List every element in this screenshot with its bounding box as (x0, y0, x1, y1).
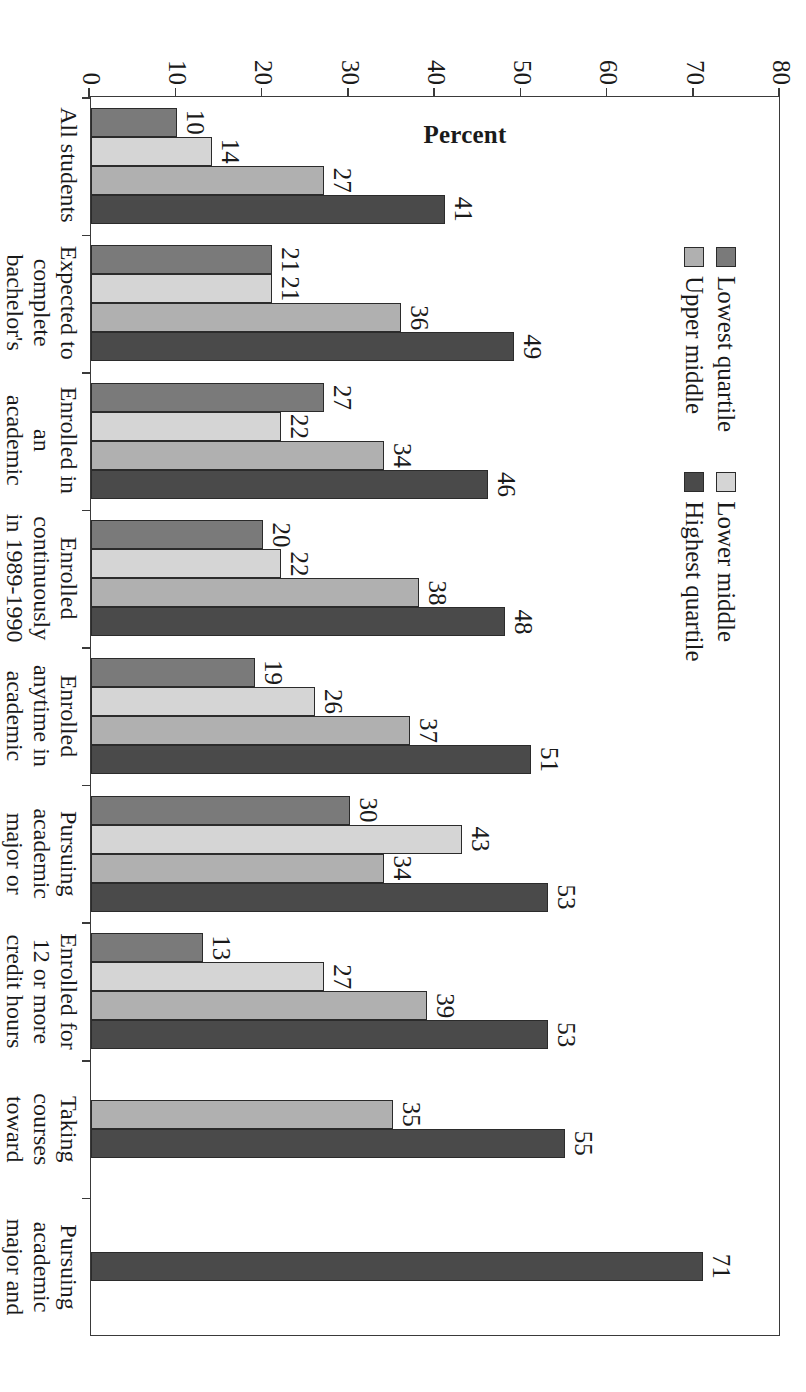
bar-highest-quartile[interactable]: 46 (91, 470, 488, 499)
bar-value-label: 14 (216, 139, 244, 164)
bar-value-label: 19 (259, 660, 287, 685)
y-tick-label: 50 (508, 60, 536, 85)
y-tick-label: 20 (250, 60, 278, 85)
bar-group: 21213649 (91, 235, 779, 373)
legend-swatch-icon (717, 472, 737, 492)
bar-upper-middle[interactable]: 34 (91, 441, 384, 470)
bar-value-label: 30 (354, 798, 382, 823)
rotated-figure-stage: Percent 80706050403020100 10142741212136… (0, 0, 806, 1392)
bar-value-label: 36 (406, 305, 434, 330)
y-tick-mark (692, 88, 694, 97)
bar-lower-middle[interactable]: 43 (91, 825, 462, 854)
page: Percent 80706050403020100 10142741212136… (0, 0, 806, 1392)
bar-value-label: 34 (388, 856, 416, 881)
bar-group: 19263751 (91, 647, 779, 785)
bar-lowest-quartile[interactable]: 21 (91, 245, 272, 274)
bar-lower-middle[interactable]: 22 (91, 549, 281, 578)
category-label: Pursuing academic major or taking course… (0, 785, 82, 923)
bars: 20223848 (91, 510, 779, 648)
bar-upper-middle[interactable]: 39 (91, 991, 427, 1020)
bar-value-label: 13 (207, 935, 235, 960)
bar-lower-middle[interactable]: 21 (91, 274, 272, 303)
bar-upper-middle[interactable]: 36 (91, 303, 402, 332)
bar-lower-middle[interactable]: 22 (91, 412, 281, 441)
x-tick-mark (82, 785, 91, 787)
bar-upper-middle[interactable]: 38 (91, 578, 419, 607)
y-tick-mark (433, 88, 435, 97)
bar-lowest-quartile[interactable]: 13 (91, 933, 203, 962)
bar-value-label: 71 (707, 1254, 735, 1279)
bar-value-label: 43 (466, 827, 494, 852)
bars: 19263751 (91, 647, 779, 785)
y-tick-mark (175, 88, 177, 97)
bar-value-label: 53 (552, 885, 580, 910)
bar-highest-quartile[interactable]: 53 (91, 883, 548, 912)
bar-upper-middle[interactable]: 27 (91, 166, 324, 195)
figure: Percent 80706050403020100 10142741212136… (0, 0, 806, 1392)
bar-highest-quartile[interactable]: 53 (91, 1020, 548, 1049)
x-tick-mark (82, 647, 91, 649)
bar-value-label: 49 (518, 334, 546, 359)
bar-lower-middle[interactable]: 26 (91, 687, 315, 716)
category-label: Enrolled continuously in 1989-1990 (1, 509, 82, 647)
category-label: Taking courses toward bachelor's (0, 1060, 82, 1198)
category-label: Enrolled for 12 or more credit hours (1, 923, 82, 1061)
x-tick-mark (82, 235, 91, 237)
bar-value-label: 38 (423, 580, 451, 605)
bar-highest-quartile[interactable]: 55 (91, 1129, 565, 1158)
y-tick-label: 70 (681, 60, 709, 85)
category-label: All students (55, 96, 82, 234)
legend-item-highest-quartile[interactable]: Highest quartile (682, 472, 707, 661)
bar-lowest-quartile[interactable]: 20 (91, 520, 264, 549)
legend-swatch-icon (685, 247, 705, 267)
bar-value-label: 21 (276, 247, 304, 272)
y-tick-mark (778, 88, 780, 97)
y-tick-label: 10 (163, 60, 191, 85)
y-tick-label: 60 (595, 60, 623, 85)
bar-upper-middle[interactable]: 34 (91, 854, 384, 883)
bars: 13273953 (91, 922, 779, 1060)
legend-swatch-icon (685, 472, 705, 492)
bar-value-label: 20 (268, 522, 296, 547)
bar-highest-quartile[interactable]: 51 (91, 745, 531, 774)
bar-group: 13273953 (91, 922, 779, 1060)
x-tick-mark (82, 1060, 91, 1062)
bar-highest-quartile[interactable]: 41 (91, 195, 445, 224)
bar-groups: 1014274121213649272234462022384819263751… (91, 97, 779, 1335)
legend-column: Lowest quartileUpper middle (682, 247, 739, 432)
bar-lower-middle[interactable]: 27 (91, 962, 324, 991)
y-tick-label: 30 (336, 60, 364, 85)
legend-item-lowest-quartile[interactable]: Lowest quartile (714, 247, 739, 432)
bar-lowest-quartile[interactable]: 19 (91, 658, 255, 687)
y-tick-mark (88, 88, 90, 97)
bars: 21213649 (91, 235, 779, 373)
y-tick-mark (606, 88, 608, 97)
y-tick-mark (261, 88, 263, 97)
bar-lowest-quartile[interactable]: 27 (91, 383, 324, 412)
bar-highest-quartile[interactable]: 49 (91, 332, 514, 361)
bar-upper-middle[interactable]: 35 (91, 1100, 393, 1129)
bar-lower-middle[interactable]: 14 (91, 137, 212, 166)
y-tick-label: 0 (77, 73, 105, 86)
category-label: Enrolled anytime in academic year 1990-1… (0, 647, 82, 785)
bars: 30433453 (91, 785, 779, 923)
x-tick-mark (82, 922, 91, 924)
bar-value-label: 53 (552, 1022, 580, 1047)
x-axis-category-labels: All studentsExpected to complete bachelo… (0, 96, 82, 1336)
bar-highest-quartile[interactable]: 71 (91, 1252, 703, 1281)
bar-group: 30433453 (91, 785, 779, 923)
bar-lowest-quartile[interactable]: 10 (91, 108, 177, 137)
bar-value-label: 22 (285, 414, 313, 439)
legend-item-upper-middle[interactable]: Upper middle (682, 247, 707, 432)
bar-value-label: 34 (388, 443, 416, 468)
legend-label: Highest quartile (682, 501, 707, 661)
y-tick-mark (520, 88, 522, 97)
legend-item-lower-middle[interactable]: Lower middle (714, 472, 739, 661)
x-tick-mark (82, 1198, 91, 1200)
bar-upper-middle[interactable]: 37 (91, 716, 410, 745)
legend-label: Upper middle (682, 276, 707, 414)
bar-highest-quartile[interactable]: 48 (91, 607, 505, 636)
bar-value-label: 48 (509, 609, 537, 634)
bar-lowest-quartile[interactable]: 30 (91, 796, 350, 825)
bar-value-label: 27 (328, 168, 356, 193)
